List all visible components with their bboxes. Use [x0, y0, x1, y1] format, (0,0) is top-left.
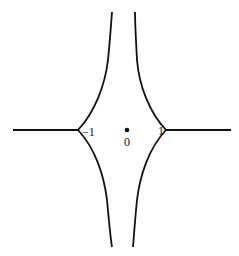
origin-point — [125, 128, 130, 133]
upper-right-curve — [135, 12, 166, 130]
diagram-canvas: −1 1 0 — [0, 0, 239, 256]
label-zero: 0 — [124, 136, 130, 148]
lower-left-curve — [78, 130, 112, 247]
label-one: 1 — [158, 125, 164, 137]
curve-diagram — [0, 0, 239, 256]
upper-left-curve — [78, 12, 112, 130]
lower-right-curve — [133, 130, 166, 247]
label-neg-one: −1 — [82, 126, 95, 138]
